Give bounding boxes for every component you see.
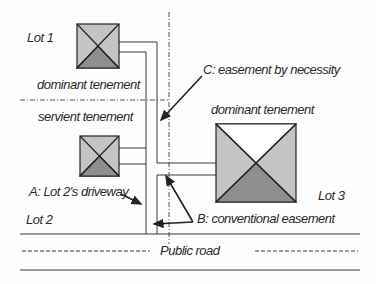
diagram-canvas: Lot 1 dominant tenement servient tenemen…: [0, 0, 376, 284]
lot2-house-icon: [80, 136, 119, 176]
lot3-house-icon: [216, 124, 296, 202]
lot1-label: Lot 1: [27, 30, 54, 45]
annotation-arrows: [121, 76, 202, 224]
road-label: Public road: [160, 243, 221, 258]
lot2-label: Lot 2: [26, 212, 54, 227]
easement-a-label: A: Lot 2's driveway: [28, 184, 130, 199]
easement-b-label: B: conventional easement: [197, 211, 336, 226]
lot3-label: Lot 3: [318, 188, 346, 203]
lot1-role-label: dominant tenement: [37, 77, 142, 92]
easement-c-label: C: easement by necessity: [203, 62, 342, 77]
arrow-c: [161, 76, 202, 120]
lot3-role-label: dominant tenement: [211, 102, 316, 117]
lot2-role-label: servient tenement: [38, 109, 135, 124]
lot1-house-icon: [77, 24, 119, 68]
arrow-b-left: [154, 222, 193, 224]
arrow-b-up: [166, 176, 193, 222]
easement-diagram: Lot 1 dominant tenement servient tenemen…: [0, 0, 376, 284]
